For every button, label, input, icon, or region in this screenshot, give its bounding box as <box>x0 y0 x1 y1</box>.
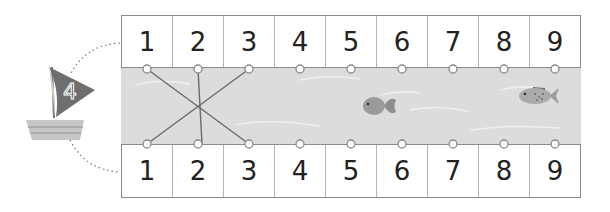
sail-number: 4 <box>63 79 77 104</box>
sailboat-icon <box>26 67 95 140</box>
number-bridge-puzzle: 1 2 3 4 5 6 7 8 9 1 2 3 4 5 6 7 8 9 <box>0 0 610 212</box>
dotted-path-top <box>70 43 120 75</box>
top-connector-dots[interactable] <box>143 65 559 73</box>
connection-lines <box>147 69 249 144</box>
dotted-path-bottom <box>70 140 120 172</box>
bottom-connector-dots[interactable] <box>143 140 559 148</box>
drawing-layer: 4 <box>0 0 610 212</box>
spotted-fish-icon <box>519 87 559 104</box>
round-fish-icon <box>363 97 396 115</box>
